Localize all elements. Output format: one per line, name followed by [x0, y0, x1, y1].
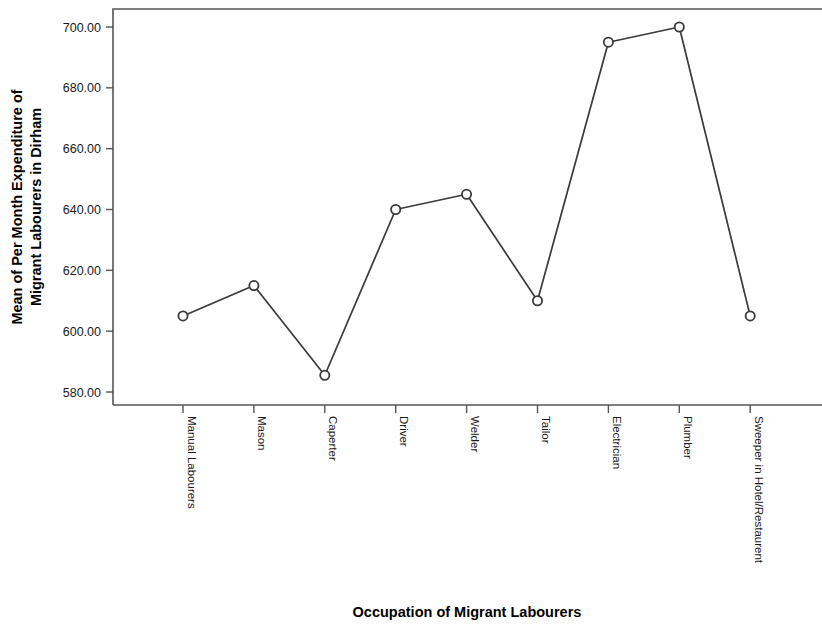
x-tick-label: Caperter	[327, 416, 339, 461]
x-tick-label: Electrician	[611, 416, 623, 469]
y-tick-label: 580.00	[63, 386, 101, 400]
x-tick-label: Plumber	[682, 416, 694, 459]
y-tick-label: 640.00	[63, 203, 101, 217]
x-tick-label: Welder	[469, 416, 481, 452]
y-tick-label: 700.00	[63, 21, 101, 35]
y-tick-label: 620.00	[63, 264, 101, 278]
data-point-markers	[178, 22, 754, 379]
y-tick-label: 680.00	[63, 81, 101, 95]
data-point-marker	[178, 311, 187, 320]
y-axis-tick-labels: 580.00600.00620.00640.00660.00680.00700.…	[63, 21, 101, 400]
data-series-line	[183, 27, 750, 375]
x-tick-label: Sweeper in Hotel/Restaurent	[753, 416, 765, 564]
y-axis-title-line1: Mean of Per Month Expenditure of	[9, 89, 25, 324]
y-axis-ticks	[106, 27, 113, 392]
x-tick-label: Manual Labourers	[186, 416, 198, 509]
data-point-marker	[533, 296, 542, 305]
plot-frame	[113, 9, 822, 405]
data-point-marker	[675, 22, 684, 31]
y-axis-title: Mean of Per Month Expenditure of Migrant…	[9, 89, 44, 324]
data-point-marker	[391, 205, 400, 214]
data-point-marker	[249, 281, 258, 290]
data-point-marker	[320, 371, 329, 380]
y-tick-label: 660.00	[63, 142, 101, 156]
chart-canvas: 580.00600.00620.00640.00660.00680.00700.…	[0, 0, 822, 630]
y-tick-label: 600.00	[63, 325, 101, 339]
y-axis-title-line2: Migrant Labourers in Dirham	[28, 108, 44, 306]
data-point-marker	[746, 311, 755, 320]
data-point-marker	[462, 190, 471, 199]
data-point-marker	[604, 38, 613, 47]
x-axis-ticks	[183, 405, 750, 413]
x-axis-title: Occupation of Migrant Labourers	[353, 604, 582, 620]
line-chart: 580.00600.00620.00640.00660.00680.00700.…	[0, 0, 822, 630]
x-tick-label: Driver	[398, 416, 410, 447]
x-tick-label: Mason	[256, 416, 268, 451]
x-axis-tick-labels: Manual LabourersMasonCaperterDriverWelde…	[186, 416, 765, 564]
x-tick-label: Tailor	[540, 416, 552, 444]
